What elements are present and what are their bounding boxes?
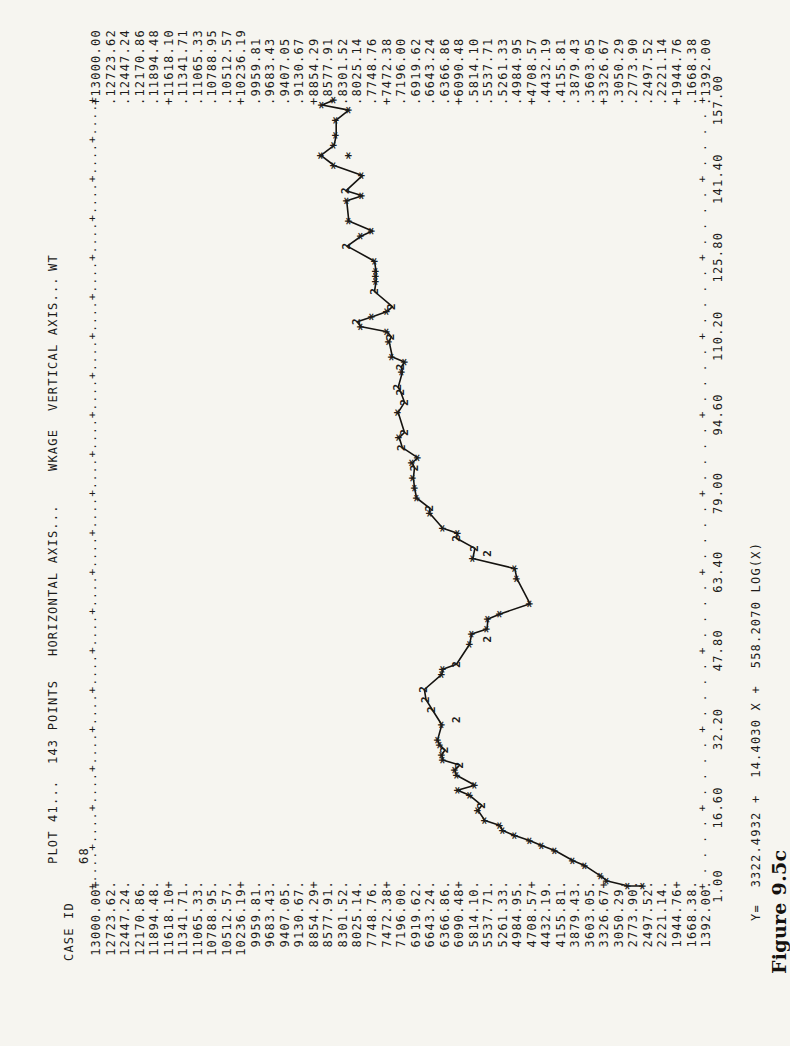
y-axis-label-left: 4708.57+	[525, 880, 539, 966]
y-axis-label-left: 3603.05.	[583, 880, 597, 966]
data-point-marker: *	[494, 821, 508, 829]
data-point-marker: *	[328, 161, 342, 169]
y-axis-label-left: 5814.10.	[467, 880, 481, 966]
horizontal-axis-label: HORIZONTAL AXIS...	[46, 504, 60, 656]
y-axis-label-left: 10236.19+	[234, 880, 248, 966]
y-axis-label-right: .2497.52	[641, 38, 655, 105]
y-axis-label-left: 11894.48.	[147, 880, 161, 966]
y-axis-label-left: 7196.00.	[394, 880, 408, 966]
data-point-marker: 2	[474, 802, 488, 809]
y-axis-label-left: 1944.76+	[670, 880, 684, 966]
case-id-label: CASE ID	[62, 902, 76, 961]
data-point-marker: *	[636, 882, 650, 890]
y-axis-label-left: 5261.33.	[496, 880, 510, 966]
data-point-marker: *	[479, 816, 493, 824]
y-axis-label-left: 9407.05.	[278, 880, 292, 966]
y-axis-label-left: 7472.38+	[380, 880, 394, 966]
y-axis-label-left: 8577.91.	[321, 880, 335, 966]
data-point-marker: *	[356, 171, 370, 179]
data-point-marker: *	[494, 610, 508, 618]
data-point-marker: *	[451, 529, 465, 537]
vertical-axis-label: VERTICAL AXIS...	[46, 276, 60, 411]
y-axis-label-right: .6366.86	[438, 38, 452, 105]
regression-equation: Y= 3322.4932 + 14.4030 X + 558.2070 LOG(…	[749, 542, 763, 921]
data-point-marker: 2	[452, 762, 466, 769]
data-point-marker: 2	[468, 545, 482, 552]
data-point-marker: *	[368, 257, 382, 265]
y-axis-label-left: 4432.19.	[539, 880, 553, 966]
data-point-marker: 2	[481, 550, 495, 557]
data-point-marker: 2	[417, 686, 431, 693]
data-point-marker: 2	[395, 444, 409, 451]
y-axis-label-right: .3603.05	[583, 38, 597, 105]
x-variable-name: WKAGE	[46, 429, 60, 471]
data-point-marker: *	[408, 484, 422, 492]
figure-caption: Figure 9.5c	[768, 850, 790, 974]
data-point-marker: *	[465, 630, 479, 638]
x-axis-label: 16.60	[711, 786, 725, 828]
y-axis-label-right: .8025.14	[350, 38, 364, 105]
data-point-marker: *	[431, 736, 445, 744]
y-axis-label-left: 4984.95.	[510, 880, 524, 966]
y-axis-label-left: 1668.38.	[685, 880, 699, 966]
y-axis-label-left: 3879.43.	[568, 880, 582, 966]
y-axis-label-left: 12170.86.	[133, 880, 147, 966]
y-axis-label-right: .9130.67	[292, 38, 306, 105]
y-axis-label-right: .3050.29	[612, 38, 626, 105]
data-point-marker: 2	[339, 187, 353, 194]
y-axis-label-left: 6919.62.	[409, 880, 423, 966]
data-point-marker: *	[328, 96, 342, 104]
scanned-figure-page: PLOT 41... 143 POINTS HORIZONTAL AXIS...…	[0, 0, 790, 1046]
y-axis-label-right: +6090.48	[452, 38, 466, 105]
data-point-marker: 2	[425, 706, 439, 713]
data-point-marker: *	[436, 524, 450, 532]
y-axis-label-left: 11341.71.	[176, 880, 190, 966]
y-axis-label-right: +1944.76	[670, 38, 684, 105]
points-count: 143 POINTS	[46, 680, 60, 764]
data-point-marker: *	[549, 846, 563, 854]
y-axis-label-left: 10512.57.	[220, 880, 234, 966]
y-axis-label-right: .11894.48	[147, 29, 161, 105]
y-axis-label-left: 6643.24.	[423, 880, 437, 966]
data-point-marker: *	[594, 872, 608, 880]
y-axis-label-left: 4155.81.	[554, 880, 568, 966]
y-axis-label-right: .12170.86	[133, 29, 147, 105]
y-axis-label-right: +4708.57	[525, 38, 539, 105]
y-axis-label-right: .5261.33	[496, 38, 510, 105]
data-point-marker: *	[330, 116, 344, 124]
y-axis-label-right: +7472.38	[380, 38, 394, 105]
y-axis-label-right: +3326.67	[597, 38, 611, 105]
data-point-marker: *	[469, 781, 483, 789]
y-axis-label-right: .6919.62	[409, 38, 423, 105]
y-axis-label-left: 8854.29+	[307, 880, 321, 966]
data-point-marker: *	[410, 494, 424, 502]
y-axis-label-left: 2773.90.	[626, 880, 640, 966]
printout-sheet: PLOT 41... 143 POINTS HORIZONTAL AXIS...…	[0, 0, 790, 1046]
data-point-marker: *	[366, 312, 380, 320]
data-point-marker: *	[328, 141, 342, 149]
y-axis-label-right: .2773.90	[626, 38, 640, 105]
y-axis-label-right: .9959.81	[249, 38, 263, 105]
x-axis-label: 1.00	[711, 869, 725, 903]
x-axis-label: 157.00	[711, 75, 725, 126]
y-axis-label-right: .9407.05	[278, 38, 292, 105]
y-axis-label-right: .4984.95	[510, 38, 524, 105]
data-point-marker: *	[342, 106, 356, 114]
y-axis-label-right: .6643.24	[423, 38, 437, 105]
y-axis-label-right: +8854.29	[307, 38, 321, 105]
x-axis-label: 94.60	[711, 393, 725, 435]
y-axis-label-left: 9683.43.	[263, 880, 277, 966]
data-point-marker: *	[463, 640, 477, 648]
data-point-marker: *	[386, 353, 400, 361]
y-axis-label-left: 12447.24.	[118, 880, 132, 966]
data-point-marker: *	[342, 217, 356, 225]
data-point-marker: *	[524, 836, 538, 844]
data-point-marker: *	[330, 131, 344, 139]
x-axis-label: 141.40	[711, 153, 725, 204]
data-point-marker: *	[481, 625, 495, 633]
data-point-marker: *	[340, 197, 354, 205]
data-point-marker: 2	[422, 505, 436, 512]
x-axis-label: 79.00	[711, 472, 725, 514]
y-axis-label-left: 10788.95.	[205, 880, 219, 966]
x-axis-label: 125.80	[711, 232, 725, 283]
